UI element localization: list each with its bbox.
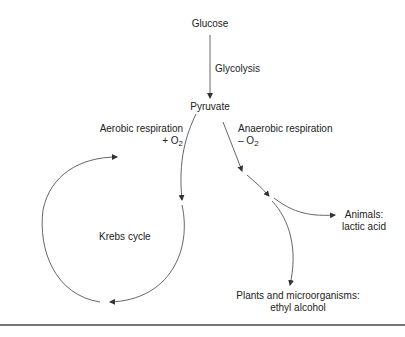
glucose-label: Glucose: [185, 18, 235, 30]
anaerobic-subscript: 2: [254, 139, 258, 148]
aerobic-arrow: [181, 114, 196, 200]
animals-label: Animals: lactic acid: [336, 209, 392, 233]
anaerobic-sign: – O: [238, 135, 254, 146]
krebs-cycle-arc-top: [110, 205, 184, 302]
glycolysis-label: Glycolysis: [215, 63, 260, 75]
anaerobic-oxygen: – O2: [238, 135, 333, 148]
aerobic-sign: + O: [162, 135, 178, 146]
plants-line1: Plants and microorganisms:: [228, 290, 368, 302]
krebs-cycle-label: Krebs cycle: [99, 231, 151, 243]
plants-label: Plants and microorganisms: ethyl alcohol: [228, 290, 368, 314]
diagram-canvas: [0, 0, 405, 337]
aerobic-line1: Aerobic respiration: [80, 123, 183, 135]
aerobic-oxygen: + O2: [80, 135, 183, 148]
pyruvate-label: Pyruvate: [182, 101, 238, 113]
animals-arrow: [274, 198, 335, 215]
anaerobic-respiration-label: Anaerobic respiration – O2: [238, 123, 333, 148]
aerobic-subscript: 2: [179, 139, 183, 148]
animals-line2: lactic acid: [336, 221, 392, 233]
krebs-cycle-arc-left: [42, 157, 117, 302]
plants-line2: ethyl alcohol: [228, 302, 368, 314]
plants-arrow: [272, 201, 293, 285]
aerobic-respiration-label: Aerobic respiration + O2: [80, 123, 183, 148]
bottom-rule: [0, 324, 405, 326]
animals-line1: Animals:: [336, 209, 392, 221]
anaerobic-arrow-2: [247, 175, 269, 196]
anaerobic-line1: Anaerobic respiration: [238, 123, 333, 135]
